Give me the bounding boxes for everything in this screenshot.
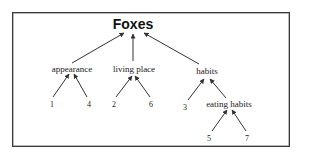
- edge-n7-to-eating_habits: [232, 110, 246, 131]
- edge-n1-to-appearance: [53, 74, 69, 97]
- edge-n3-to-habits: [188, 79, 204, 100]
- edge-habits-to-foxes: [144, 33, 199, 64]
- root-node-foxes: Foxes: [113, 17, 153, 31]
- node-6: 6: [149, 101, 153, 109]
- node-7: 7: [245, 135, 249, 143]
- node-appearance: appearance: [52, 65, 92, 74]
- edge-eating_habits-to-habits: [210, 79, 226, 98]
- node-habits: habits: [196, 67, 218, 76]
- edge-n2-to-living_place: [116, 76, 132, 97]
- node-4: 4: [87, 101, 91, 109]
- edge-n5-to-eating_habits: [212, 110, 227, 131]
- node-eating-habits: eating habits: [206, 100, 252, 109]
- edge-n4-to-appearance: [74, 74, 87, 97]
- edge-n6-to-living_place: [135, 76, 150, 97]
- node-1: 1: [50, 101, 54, 109]
- node-2: 2: [112, 101, 116, 109]
- edge-appearance-to-foxes: [72, 33, 124, 63]
- node-5: 5: [207, 135, 211, 143]
- node-living-place: living place: [113, 65, 155, 74]
- node-3: 3: [183, 104, 187, 112]
